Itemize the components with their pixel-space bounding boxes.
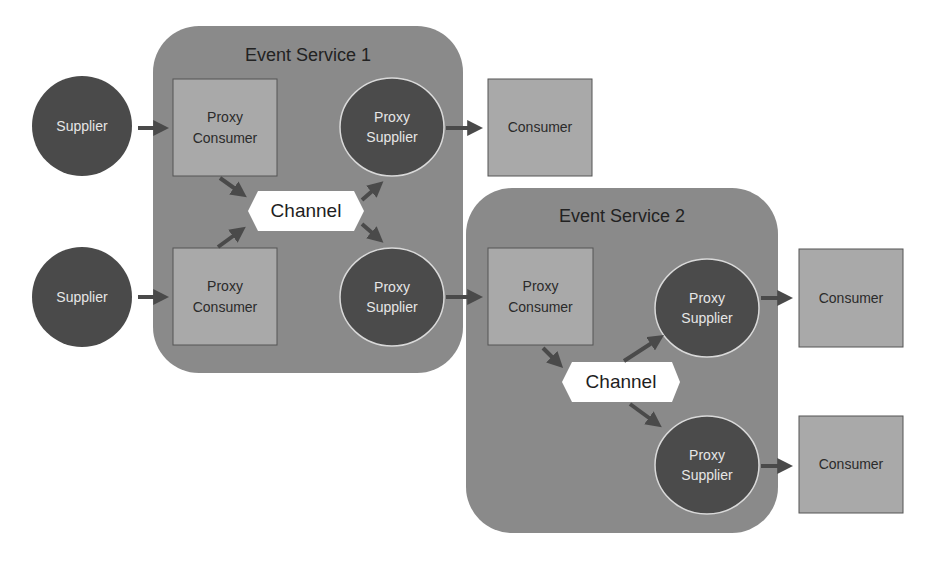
- supplier-node-2: [32, 247, 132, 347]
- es2-proxy-consumer: [488, 248, 593, 345]
- event-service-federation-diagram: Event Service 1 Event Service 2 Supplier…: [0, 0, 936, 562]
- consumer-node-3: [799, 416, 903, 513]
- supplier-node-1: [32, 76, 132, 176]
- diagram-canvas: [0, 0, 936, 562]
- es1-proxy-consumer-1: [173, 79, 277, 176]
- consumer-node-1: [488, 79, 592, 176]
- es2-proxy-supplier-2: [655, 416, 759, 514]
- es2-proxy-supplier-1: [655, 259, 759, 357]
- es1-proxy-supplier-1: [340, 78, 444, 176]
- es1-proxy-supplier-2: [340, 248, 444, 346]
- es2-channel-shape: [562, 362, 680, 402]
- es1-channel-shape: [248, 191, 364, 231]
- consumer-node-2: [799, 249, 903, 347]
- es1-proxy-consumer-2: [173, 248, 277, 345]
